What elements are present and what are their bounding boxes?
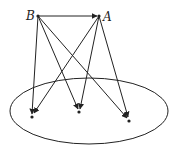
diagram-canvas: B A [0,0,179,157]
node-b-label: B [25,9,35,23]
target-p3-dot [127,119,130,122]
node-b-dot [36,14,39,17]
edge-b-p2 [38,16,78,109]
node-a-dot [97,14,100,17]
edge-b-p1 [32,16,38,114]
target-p1-dot [30,115,33,118]
target-p2-dot [77,110,80,113]
node-a-label: A [102,10,112,24]
